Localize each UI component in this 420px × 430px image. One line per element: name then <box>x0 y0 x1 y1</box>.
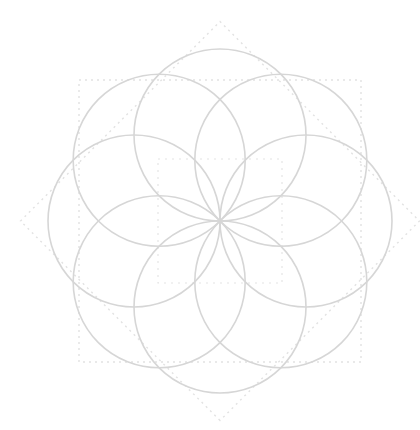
diagram-canvas <box>0 0 420 430</box>
petal-circles <box>48 49 392 393</box>
flower-of-life-diagram <box>0 0 420 430</box>
